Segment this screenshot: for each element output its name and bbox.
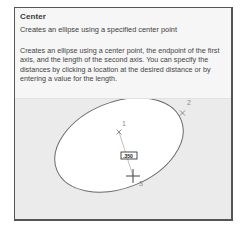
tooltip-text-area: Center Creates an ellipse using a specif… <box>15 8 231 98</box>
tooltip-description: Creates an ellipse using a center point,… <box>20 46 230 83</box>
ellipse-shape <box>41 99 197 210</box>
point-label-1: 1 <box>122 120 126 127</box>
point-label-3: 3 <box>139 180 143 187</box>
axis-endpoint-x-icon <box>180 111 185 116</box>
dimension-input-box: .350 <box>121 152 137 159</box>
ellipse-center-tooltip: Center Creates an ellipse using a specif… <box>14 7 233 221</box>
tooltip-subtitle: Creates an ellipse using a specified cen… <box>20 25 177 34</box>
dimension-value: .350 <box>123 153 133 159</box>
ellipse-illustration: 1 2 .350 3 <box>15 99 231 219</box>
tooltip-title: Center <box>20 12 46 21</box>
point-label-2: 2 <box>187 99 191 106</box>
